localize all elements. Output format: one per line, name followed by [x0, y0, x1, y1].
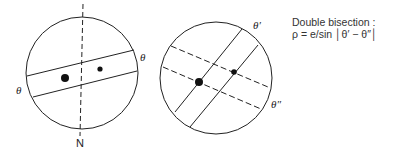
theta-prime-label: θ′	[253, 19, 261, 31]
theta-label-right: θ	[140, 51, 146, 63]
theta-double-prime-dashed-1	[171, 46, 268, 87]
caption-title: Double bisection :	[292, 16, 378, 28]
theta-double-prime-dashed-2	[163, 67, 261, 109]
caption: Double bisection : ρ = e/sin │θ′ − θ″│	[292, 16, 378, 40]
north-dashed-line	[80, 4, 83, 136]
theta-double-prime-label: θ″	[271, 98, 281, 110]
small-dot	[231, 69, 237, 75]
north-label: N	[76, 137, 84, 149]
bisector-line-upper	[27, 50, 134, 76]
theta-prime-line-2	[190, 45, 258, 127]
small-dot	[97, 66, 102, 71]
caption-formula: ρ = e/sin │θ′ − θ″│	[292, 28, 378, 40]
theta-label-left: θ	[16, 84, 22, 96]
left-circle	[26, 17, 138, 129]
right-circle	[160, 22, 272, 134]
large-dot	[61, 74, 69, 82]
right-projection: θ′ θ″	[160, 19, 281, 134]
left-projection: θ θ N	[16, 4, 146, 149]
large-dot	[195, 78, 203, 86]
bisector-line-lower	[33, 71, 137, 97]
